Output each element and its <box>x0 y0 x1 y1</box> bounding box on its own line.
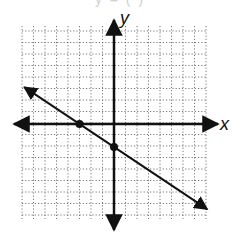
point-marker <box>110 143 118 151</box>
y-axis-label: y <box>118 8 130 28</box>
point-marker <box>76 120 84 128</box>
coordinate-plane: x y <box>0 0 240 236</box>
x-axis-label: x <box>219 114 230 134</box>
